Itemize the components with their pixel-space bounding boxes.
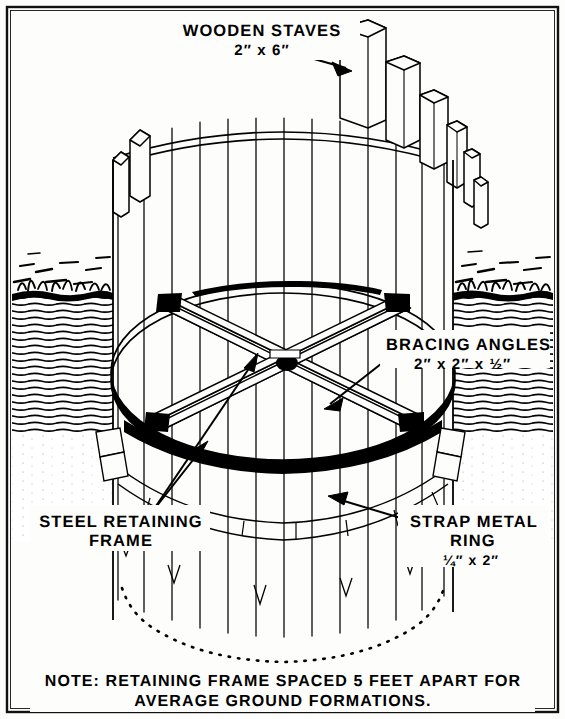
note-line2: AVERAGE GROUND FORMATIONS. bbox=[134, 693, 431, 710]
bracing-angles-line1: BRACING ANGLES bbox=[386, 336, 551, 354]
strap-metal-ring-line2: RING bbox=[450, 532, 496, 550]
strap-metal-ring-line1: STRAP METAL bbox=[410, 513, 538, 531]
bracing-angles-line2: 2″ x 2″ x ½″ bbox=[414, 356, 511, 373]
steel-retaining-frame-line1: STEEL RETAINING bbox=[39, 513, 203, 531]
figure-note: NOTE: RETAINING FRAME SPACED 5 FEET APAR… bbox=[30, 668, 535, 712]
note-line1: NOTE: RETAINING FRAME SPACED 5 FEET APAR… bbox=[45, 673, 521, 690]
technical-illustration: WOODEN STAVES 2″ x 6″ BRACING ANGLES 2″ … bbox=[0, 0, 565, 719]
ground-right bbox=[452, 251, 553, 542]
wooden-staves-line1: WOODEN STAVES bbox=[183, 22, 342, 40]
wooden-staves-line2: 2″ x 6″ bbox=[234, 42, 289, 59]
steel-retaining-frame-line2: FRAME bbox=[89, 532, 153, 550]
illustration-stage: WOODEN STAVES 2″ x 6″ BRACING ANGLES 2″ … bbox=[0, 0, 565, 719]
ground-left bbox=[12, 253, 113, 542]
strap-metal-ring-line3: ¼″ x 2″ bbox=[443, 552, 499, 568]
stave-cylinder bbox=[113, 118, 453, 655]
